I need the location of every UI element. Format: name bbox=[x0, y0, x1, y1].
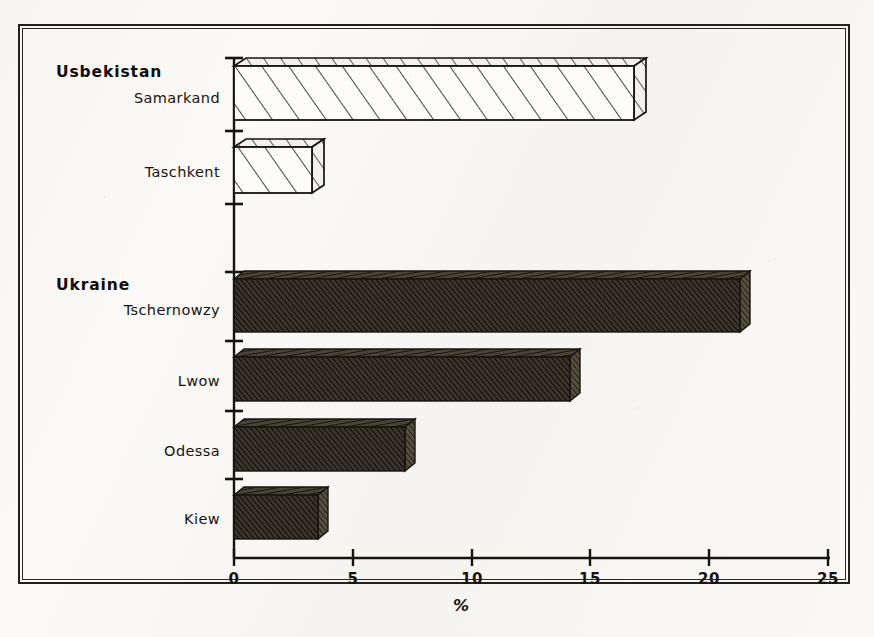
chart-page: Usbekistan Ukraine Samarkand Taschkent T… bbox=[0, 0, 874, 637]
category-label-kiew: Kiew bbox=[184, 511, 220, 527]
x-tick-label-5: 5 bbox=[348, 570, 359, 588]
category-label-odessa: Odessa bbox=[164, 443, 220, 459]
category-label-tschernowzy: Tschernowzy bbox=[124, 302, 220, 318]
category-label-taschkent: Taschkent bbox=[145, 164, 220, 180]
category-label-samarkand: Samarkand bbox=[134, 90, 220, 106]
bar-odessa bbox=[234, 419, 415, 471]
x-tick-label-15: 15 bbox=[579, 570, 601, 588]
x-tick-label-0: 0 bbox=[229, 570, 240, 588]
x-axis-title: % bbox=[453, 596, 469, 615]
bar-samarkand bbox=[234, 58, 646, 120]
bar-taschkent bbox=[234, 139, 324, 193]
group-label-usbekistan: Usbekistan bbox=[56, 63, 162, 81]
bar-lwow bbox=[234, 349, 580, 401]
group-label-ukraine: Ukraine bbox=[56, 276, 130, 294]
category-label-lwow: Lwow bbox=[178, 373, 220, 389]
bar-tschernowzy bbox=[234, 271, 750, 332]
x-tick-label-20: 20 bbox=[698, 570, 720, 588]
x-tick-label-10: 10 bbox=[461, 570, 483, 588]
bar-kiew bbox=[234, 487, 328, 539]
x-tick-label-25: 25 bbox=[817, 570, 839, 588]
bar-chart-plot bbox=[0, 0, 874, 637]
